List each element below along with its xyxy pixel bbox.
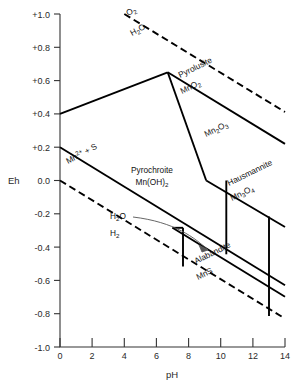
annotation-labels-group: O2 H2O Pyrolusite MnO2 Mn2O3 Hausmannite…	[64, 4, 274, 282]
label-mnoh2: Mn(OH)2	[136, 177, 170, 188]
x-tick-labels: 0 2 4 6 8 10 12 14	[57, 351, 290, 361]
label-pyrolusite: Pyrolusite	[176, 55, 213, 80]
y-tick-label: -0.2	[34, 209, 50, 219]
y-tick-labels: +1.0 +0.8 +0.6 +0.4 +0.2 0.0 -0.2 -0.4 -…	[32, 10, 50, 353]
label-o2: O2	[124, 4, 138, 19]
x-tick-label: 10	[216, 351, 226, 361]
label-mn2o3: Mn2O3	[202, 119, 230, 140]
x-tickmarks	[60, 338, 285, 347]
pourbaix-diagram-svg: +1.0 +0.8 +0.6 +0.4 +0.2 0.0 -0.2 -0.4 -…	[0, 0, 296, 387]
y-tick-label: -0.4	[34, 243, 50, 253]
y-tick-label: 0.0	[37, 176, 50, 186]
x-tick-label: 12	[248, 351, 258, 361]
label-pyrochroite: Pyrochroite	[131, 165, 173, 175]
x-tick-label: 2	[90, 351, 95, 361]
y-tick-label: +1.0	[32, 10, 50, 20]
x-tick-label: 4	[122, 351, 127, 361]
mn2plus-mno2-boundary	[60, 72, 168, 114]
y-tick-label: +0.4	[32, 109, 50, 119]
x-tick-label: 8	[186, 351, 191, 361]
x-tick-label: 6	[154, 351, 159, 361]
y-tick-label: -0.6	[34, 276, 50, 286]
y-tick-label: +0.8	[32, 43, 50, 53]
y-tick-label: +0.2	[32, 143, 50, 153]
x-tick-label: 0	[57, 351, 62, 361]
label-hausmannite: Hausmannite	[225, 157, 274, 188]
y-tickmarks	[54, 14, 60, 347]
x-axis-title: pH	[166, 369, 178, 380]
label-h2o-upper: H2O	[128, 21, 148, 38]
eh-ph-diagram-figure: +1.0 +0.8 +0.6 +0.4 +0.2 0.0 -0.2 -0.4 -…	[0, 0, 296, 387]
h2o-h2-boundary	[60, 181, 285, 319]
y-tick-label: -1.0	[34, 343, 50, 353]
label-mns: MnS	[194, 265, 214, 282]
pyrochroite-leader-line	[133, 217, 208, 250]
x-tick-label: 14	[280, 351, 290, 361]
label-h2o-lower: H2O	[110, 211, 126, 222]
y-tick-label: -0.8	[34, 309, 50, 319]
y-axis-title: Eh	[8, 175, 20, 186]
y-tick-label: +0.6	[32, 76, 50, 86]
label-h2: H2	[110, 228, 120, 239]
